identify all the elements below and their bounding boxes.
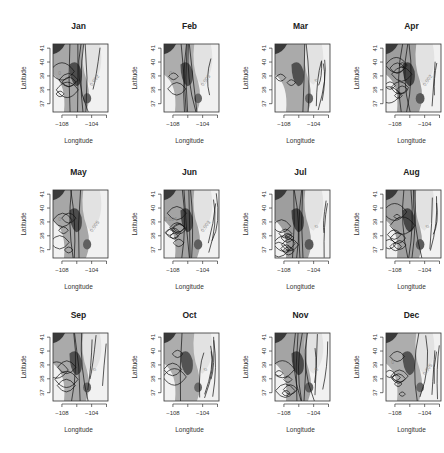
y-axis-label: Latitude xyxy=(242,212,249,236)
y-tick-label: 40 xyxy=(372,347,378,354)
panel-nov: Nov0−108−1043738394041LongitudeLatitude xyxy=(242,310,330,434)
x-axis-label: Longitude xyxy=(286,137,315,145)
y-tick-label: 38 xyxy=(150,375,156,382)
x-tick-label: −104 xyxy=(418,121,432,127)
x-axis-label: Longitude xyxy=(64,283,93,291)
shaded-field: 0 xyxy=(163,333,219,401)
x-tick-label: −104 xyxy=(307,267,321,273)
x-tick-label: −104 xyxy=(307,121,321,127)
y-tick-label: 39 xyxy=(39,72,45,79)
x-tick-label: −104 xyxy=(85,267,99,273)
panel-feb: Feb0.0050−108−1043738394041LongitudeLati… xyxy=(131,21,219,145)
x-tick-label: −104 xyxy=(418,267,432,273)
panel-aug: Aug0−108−1043738394041LongitudeLatitude xyxy=(353,167,441,291)
y-tick-label: 37 xyxy=(39,246,45,253)
panel-title: Dec xyxy=(404,310,420,320)
x-axis-label: Longitude xyxy=(286,426,315,434)
y-axis-label: Latitude xyxy=(353,355,360,379)
panel-oct: Oct0−108−1043738394041LongitudeLatitude xyxy=(131,310,219,434)
x-tick-label: −108 xyxy=(277,410,291,416)
x-tick-label: −104 xyxy=(85,121,99,127)
y-tick-label: 37 xyxy=(372,389,378,396)
y-tick-label: 41 xyxy=(372,190,378,197)
panel-jan: Jan0.0020−108−1043738394041LongitudeLati… xyxy=(20,21,108,145)
y-axis-label: Latitude xyxy=(131,212,138,236)
x-tick-label: −108 xyxy=(166,267,180,273)
y-tick-label: 38 xyxy=(150,86,156,93)
y-axis-label: Latitude xyxy=(131,66,138,90)
y-tick-label: 37 xyxy=(372,100,378,107)
contour-label: 0 xyxy=(169,70,172,76)
field-region-spot xyxy=(416,239,425,250)
y-tick-label: 40 xyxy=(150,347,156,354)
x-tick-label: −108 xyxy=(277,267,291,273)
y-tick-label: 38 xyxy=(261,375,267,382)
shaded-field: 0 xyxy=(275,44,330,112)
y-tick-label: 38 xyxy=(261,86,267,93)
panel-dec: Dec0.0050−108−1043738394041LongitudeLati… xyxy=(353,310,441,434)
field-region-spot xyxy=(194,239,202,249)
y-tick-label: 40 xyxy=(39,204,45,211)
y-tick-label: 39 xyxy=(261,361,267,368)
x-tick-label: −108 xyxy=(388,410,402,416)
panel-may: May0.0050−108−1043738394041LongitudeLati… xyxy=(20,167,108,291)
shaded-field: 0.0050 xyxy=(385,333,441,401)
y-tick-label: 41 xyxy=(261,190,267,197)
y-tick-label: 40 xyxy=(261,347,267,354)
x-tick-label: −104 xyxy=(196,267,210,273)
field-region-spot xyxy=(416,93,425,104)
panel-title: Jul xyxy=(294,167,306,177)
y-tick-label: 38 xyxy=(39,375,45,382)
panel-apr: Apr0.002−108−1043738394041LongitudeLatit… xyxy=(353,21,441,145)
field-region-spot xyxy=(305,239,314,250)
y-tick-label: 39 xyxy=(150,72,156,79)
field-region-spot xyxy=(194,383,202,393)
panel-title: Oct xyxy=(182,310,196,320)
shaded-field: 0 xyxy=(270,333,330,401)
y-tick-label: 37 xyxy=(150,100,156,107)
y-tick-label: 41 xyxy=(150,190,156,197)
y-tick-label: 38 xyxy=(372,86,378,93)
y-tick-label: 37 xyxy=(261,100,267,107)
x-tick-label: −104 xyxy=(196,121,210,127)
x-tick-label: −108 xyxy=(388,267,402,273)
panel-mar: Mar0−108−1043738394041LongitudeLatitude xyxy=(242,21,330,145)
shaded-field: 0.0050 xyxy=(164,44,219,112)
y-tick-label: 38 xyxy=(39,86,45,93)
x-tick-label: −104 xyxy=(85,410,99,416)
y-tick-label: 40 xyxy=(372,204,378,211)
y-tick-label: 38 xyxy=(372,232,378,239)
y-tick-label: 41 xyxy=(39,333,45,340)
shaded-field: 0.0030.004 xyxy=(164,190,219,258)
y-tick-label: 41 xyxy=(150,333,156,340)
x-tick-label: −108 xyxy=(277,121,291,127)
y-tick-label: 39 xyxy=(39,218,45,225)
shaded-field: 0 xyxy=(45,333,108,401)
y-tick-label: 40 xyxy=(261,204,267,211)
x-axis-label: Longitude xyxy=(64,137,93,145)
y-axis-label: Latitude xyxy=(353,212,360,236)
y-tick-label: 41 xyxy=(261,44,267,51)
panel-jun: Jun0.0030.004−108−1043738394041Longitude… xyxy=(131,167,219,291)
x-tick-label: −108 xyxy=(166,121,180,127)
x-axis-label: Longitude xyxy=(175,283,204,291)
x-tick-label: −108 xyxy=(55,410,69,416)
panel-title: Jan xyxy=(71,21,86,31)
y-tick-label: 40 xyxy=(372,58,378,65)
y-tick-label: 41 xyxy=(372,333,378,340)
y-axis-label: Latitude xyxy=(20,212,27,236)
panel-title: Aug xyxy=(403,167,420,177)
y-tick-label: 41 xyxy=(261,333,267,340)
field-region-spot xyxy=(83,239,91,249)
y-tick-label: 40 xyxy=(39,58,45,65)
y-tick-label: 38 xyxy=(372,375,378,382)
y-tick-label: 40 xyxy=(150,58,156,65)
x-tick-label: −108 xyxy=(55,121,69,127)
y-tick-label: 39 xyxy=(372,72,378,79)
shaded-field: 0 xyxy=(268,190,330,258)
y-tick-label: 38 xyxy=(39,232,45,239)
x-tick-label: −104 xyxy=(418,410,432,416)
y-tick-label: 41 xyxy=(39,190,45,197)
x-tick-label: −104 xyxy=(196,410,210,416)
y-tick-label: 41 xyxy=(150,44,156,51)
